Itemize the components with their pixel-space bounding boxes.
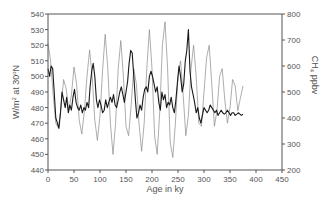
x-tick-label: 350 <box>223 175 237 184</box>
left-tick-label: 450 <box>31 150 45 159</box>
x-tick-label: 200 <box>145 175 159 184</box>
left-tick-label: 530 <box>31 26 45 35</box>
left-tick-label: 460 <box>31 135 45 144</box>
right-y-axis-label: CH4 ppbv <box>309 56 320 95</box>
x-tick-label: 400 <box>249 175 263 184</box>
right-tick-label: 500 <box>287 88 301 97</box>
left-y-axis: 440450460470480490500510520530540 <box>31 10 48 175</box>
x-tick-label: 0 <box>46 175 51 184</box>
x-tick-label: 450 <box>275 175 289 184</box>
x-tick-label: 250 <box>171 175 185 184</box>
right-tick-label: 200 <box>287 166 301 175</box>
x-axis: 050100150200250300350400450 <box>46 170 289 184</box>
left-tick-label: 440 <box>31 166 45 175</box>
right-tick-label: 800 <box>287 10 301 19</box>
x-tick-label: 300 <box>197 175 211 184</box>
left-tick-label: 510 <box>31 57 45 66</box>
insolation-series-line <box>48 22 243 158</box>
x-axis-label: Age in ky <box>146 184 184 194</box>
left-tick-label: 520 <box>31 41 45 50</box>
insolation-polyline <box>48 22 243 158</box>
left-tick-label: 500 <box>31 72 45 81</box>
right-tick-label: 400 <box>287 114 301 123</box>
left-tick-label: 540 <box>31 10 45 19</box>
left-y-axis-label: W/m2 at 30oN <box>11 65 21 119</box>
right-y-axis: 200300400500600700800 <box>282 10 301 175</box>
left-tick-label: 490 <box>31 88 45 97</box>
x-tick-label: 150 <box>119 175 133 184</box>
left-tick-label: 480 <box>31 104 45 113</box>
right-tick-label: 600 <box>287 62 301 71</box>
x-tick-label: 100 <box>93 175 107 184</box>
left-tick-label: 470 <box>31 119 45 128</box>
x-tick-label: 50 <box>70 175 79 184</box>
right-tick-label: 300 <box>287 140 301 149</box>
right-tick-label: 700 <box>287 36 301 45</box>
chart: 440450460470480490500510520530540 200300… <box>0 0 331 208</box>
